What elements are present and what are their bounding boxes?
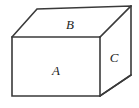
cuboid-figure: A B C: [0, 0, 139, 108]
front-face-label: A: [52, 64, 60, 77]
top-face-label: B: [66, 18, 74, 31]
right-face-label: C: [110, 51, 119, 64]
